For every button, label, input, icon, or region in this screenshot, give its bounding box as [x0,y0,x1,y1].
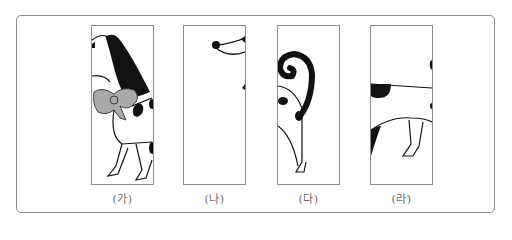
panel-da [277,25,340,185]
panel-label-na: (나) [183,190,246,206]
panel-na [183,25,246,185]
panel-label-ra: (라) [370,190,433,206]
dog-head-bow-illustration [92,26,153,184]
dog-nose-illustration [184,26,245,184]
panel-ga [91,25,154,185]
panel-ra [370,25,433,185]
panel-label-ga: (가) [91,190,154,206]
dog-body-illustration [371,26,432,184]
dog-tail-illustration [278,26,339,184]
panel-label-da: (다) [277,190,340,206]
